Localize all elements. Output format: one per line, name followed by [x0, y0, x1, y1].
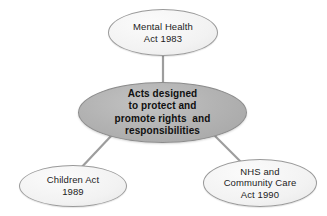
node-mental-health-act-label: Mental Health Act 1983 [133, 21, 193, 44]
node-acts-hub-label: Acts designed to protect and promote rig… [115, 88, 211, 137]
node-children-act[interactable]: Children Act 1989 [19, 165, 127, 207]
node-nhs-community-care-act[interactable]: NHS and Community Care Act 1990 [203, 159, 317, 207]
node-acts-hub[interactable]: Acts designed to protect and promote rig… [78, 82, 247, 143]
node-nhs-community-care-act-label: NHS and Community Care Act 1990 [224, 166, 297, 201]
legislation-relationship-diagram: Mental Health Act 1983 Acts designed to … [0, 0, 327, 216]
node-children-act-label: Children Act 1989 [47, 174, 99, 197]
node-mental-health-act[interactable]: Mental Health Act 1983 [108, 9, 218, 56]
